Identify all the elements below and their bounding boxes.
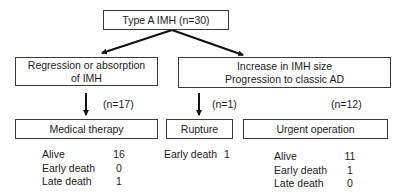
urgent-operation-node: Urgent operation bbox=[243, 119, 388, 139]
stat-key: Alive bbox=[274, 150, 338, 164]
stat-value: 0 bbox=[109, 162, 129, 176]
medical-stats: Alive 16 Early death 0 Late death 1 bbox=[42, 148, 129, 189]
stat-value: 1 bbox=[109, 175, 129, 189]
progression-label-line1: Increase in IMH size bbox=[237, 60, 332, 73]
regression-label-line1: Regression or absorption bbox=[28, 59, 145, 72]
stat-key: Late death bbox=[42, 175, 109, 189]
regression-node: Regression or absorption of IMH bbox=[15, 57, 158, 86]
stat-value: 1 bbox=[338, 164, 362, 178]
operation-count-label: (n=12) bbox=[331, 98, 362, 110]
stat-value: 0 bbox=[338, 177, 362, 191]
stat-row: Late death 0 bbox=[274, 177, 362, 191]
stat-row: Late death 1 bbox=[42, 175, 129, 189]
progression-node: Increase in IMH size Progression to clas… bbox=[178, 57, 391, 88]
rupture-node: Rupture bbox=[166, 119, 233, 139]
stat-row: Alive 11 bbox=[274, 150, 362, 164]
operation-stats: Alive 11 Early death 1 Late death 0 bbox=[274, 150, 362, 191]
root-node: Type A IMH (n=30) bbox=[103, 10, 229, 30]
rupture-count-label: (n=1) bbox=[212, 98, 237, 110]
regression-label-line2: of IMH bbox=[71, 72, 102, 85]
medical-therapy-label: Medical therapy bbox=[49, 123, 123, 136]
progression-label-line2: Progression to classic AD bbox=[225, 73, 344, 86]
stat-row: Alive 16 bbox=[42, 148, 129, 162]
root-node-label: Type A IMH (n=30) bbox=[122, 14, 209, 27]
medical-count-label: (n=17) bbox=[103, 98, 134, 110]
rupture-label: Rupture bbox=[181, 123, 218, 136]
stat-value: 1 bbox=[222, 148, 232, 162]
stat-row: Early death 0 bbox=[42, 162, 129, 176]
stat-value: 16 bbox=[109, 148, 129, 162]
medical-therapy-node: Medical therapy bbox=[15, 119, 158, 139]
stat-key: Early death bbox=[164, 148, 222, 162]
stat-key: Early death bbox=[42, 162, 109, 176]
rupture-stats: Early death 1 bbox=[164, 148, 232, 162]
stat-value: 11 bbox=[338, 150, 362, 164]
stat-key: Late death bbox=[274, 177, 338, 191]
stat-row: Early death 1 bbox=[274, 164, 362, 178]
stat-key: Early death bbox=[274, 164, 338, 178]
stat-row: Early death 1 bbox=[164, 148, 232, 162]
stat-key: Alive bbox=[42, 148, 109, 162]
urgent-operation-label: Urgent operation bbox=[276, 123, 354, 136]
